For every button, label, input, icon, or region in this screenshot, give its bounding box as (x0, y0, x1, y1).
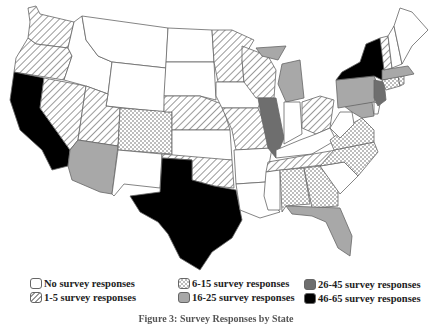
state-co (118, 108, 172, 154)
state-in (284, 102, 302, 144)
state-sd (164, 62, 216, 100)
state-wa (28, 6, 74, 48)
legend-label: 1-5 survey responses (44, 292, 136, 303)
state-nm (112, 150, 162, 196)
state-ms (264, 170, 280, 210)
legend-label: 46-65 survey responses (318, 293, 420, 304)
legend-swatch-checker (178, 278, 190, 289)
legend-swatch-black (304, 293, 316, 304)
legend-swatch-empty (30, 278, 42, 289)
legend-label: No survey responses (44, 278, 135, 289)
legend-label: 6-15 survey responses (192, 278, 289, 289)
figure-caption: Figure 3: Survey Responses by State (0, 313, 432, 324)
legend-item-16-25: 16-25 survey responses (178, 292, 294, 303)
state-ny (336, 38, 386, 82)
state-nd (166, 28, 214, 62)
legend-label: 26-45 survey responses (318, 279, 420, 290)
state-fl (286, 206, 352, 256)
state-wy (106, 62, 166, 112)
legend-item-26-45: 26-45 survey responses (304, 279, 420, 290)
state-az (68, 140, 118, 194)
us-choropleth-map (0, 0, 432, 275)
legend-swatch-dark-gray (304, 279, 316, 290)
legend-swatch-light-gray (178, 292, 190, 303)
map-legend: No survey responses 1-5 survey responses… (0, 278, 432, 308)
legend-swatch-hatch (30, 292, 42, 303)
legend-item-none: No survey responses (30, 278, 135, 289)
legend-item-6-15: 6-15 survey responses (178, 278, 289, 289)
legend-label: 16-25 survey responses (192, 292, 294, 303)
legend-item-46-65: 46-65 survey responses (304, 293, 420, 304)
legend-item-1-5: 1-5 survey responses (30, 292, 136, 303)
state-pa (336, 76, 380, 108)
